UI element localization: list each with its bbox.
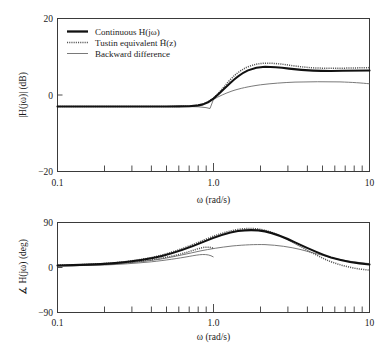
bode-plot-figure: 20 0 −20 0.1 1.0 10 |H(jω)| (dB) [0, 0, 386, 343]
phase-curve-continuous [58, 230, 370, 265]
magnitude-y-ticks [58, 19, 63, 172]
phase-plot: 90 0 −90 0.1 1.0 10 ∡ H(jω) (deg) ω (rad… [18, 218, 375, 343]
phase-ytick-mid: 0 [48, 263, 53, 273]
phase-xtick-left: 0.1 [52, 318, 64, 328]
phase-y-ticks [58, 223, 63, 313]
magnitude-xtick-right: 10 [365, 178, 375, 188]
magnitude-ytick-bottom: −20 [38, 167, 53, 177]
legend-label-continuous: Continuous H(jω) [95, 27, 160, 37]
legend-label-tustin: Tustin equivalent H̄(z) [95, 38, 176, 48]
magnitude-ytick-mid: 0 [48, 91, 53, 101]
magnitude-legend: Continuous H(jω) Tustin equivalent H̄(z)… [62, 22, 234, 64]
legend-label-backward-difference: Backward difference [95, 49, 170, 59]
phase-ytick-top: 90 [44, 218, 54, 228]
phase-x-ticks [105, 304, 363, 313]
magnitude-xtick-left: 0.1 [52, 178, 64, 188]
phase-ylabel: ∡ H(jω) (deg) [18, 239, 29, 295]
magnitude-ylabel: |H(jω)| (dB) [18, 72, 29, 118]
phase-plot-frame [58, 223, 370, 313]
magnitude-xlabel: ω (rad/s) [197, 195, 230, 206]
phase-xlabel: ω (rad/s) [197, 332, 230, 343]
phase-xtick-right: 10 [365, 318, 375, 328]
magnitude-curve-backward-difference [58, 82, 370, 109]
phase-xtick-mid: 1.0 [208, 318, 220, 328]
magnitude-plot: 20 0 −20 0.1 1.0 10 |H(jω)| (dB) [18, 14, 375, 206]
magnitude-ytick-top: 20 [44, 14, 54, 24]
magnitude-x-ticks [105, 163, 363, 172]
phase-ytick-bottom: −90 [38, 308, 53, 318]
magnitude-xtick-mid: 1.0 [208, 178, 220, 188]
